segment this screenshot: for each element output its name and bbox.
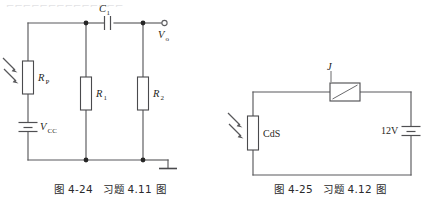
battery-vcc-symbol bbox=[19, 123, 38, 132]
caption-4-25: 图 4-25 习题 4.12 图 bbox=[220, 181, 440, 196]
figure-4-24: R P V CC R 1 R 2 C 1 bbox=[0, 0, 220, 203]
schematic-4-25: J CdS 12V bbox=[220, 0, 440, 178]
label-vcc-subscript: CC bbox=[48, 127, 58, 135]
battery-12v-symbol bbox=[402, 127, 421, 136]
junction-dot-top-r1 bbox=[84, 21, 89, 26]
junction-dot-top-r2 bbox=[141, 21, 146, 26]
photoresistor-cds-body bbox=[248, 116, 259, 150]
junction-dot-bottom-r2 bbox=[141, 158, 146, 163]
light-arrows-cds bbox=[228, 113, 244, 139]
resistor-r2-body bbox=[138, 77, 149, 110]
junction-dot-bottom-r1 bbox=[84, 158, 89, 163]
label-r1: R bbox=[95, 88, 103, 99]
figure-page: ⌐⌐⌐⌐⌐⌐⌐⌐⌐⌐⌐⌐⌐⌐ bbox=[0, 0, 440, 203]
label-vo-subscript: o bbox=[166, 35, 170, 43]
schematic-4-24: R P V CC R 1 R 2 C 1 bbox=[0, 0, 220, 178]
label-12v: 12V bbox=[381, 125, 399, 136]
resistor-r1-body bbox=[81, 77, 92, 110]
label-rp-subscript: P bbox=[46, 78, 50, 86]
label-r2: R bbox=[152, 88, 160, 99]
label-r1-subscript: 1 bbox=[104, 94, 108, 102]
photoresistor-rp-body bbox=[23, 61, 34, 94]
output-terminal-circle bbox=[162, 20, 167, 25]
label-r2-subscript: 2 bbox=[161, 94, 165, 102]
light-arrows-rp bbox=[3, 58, 19, 84]
label-j: J bbox=[327, 61, 333, 72]
figure-4-25: J CdS 12V 图 4-25 习题 4.12 图 bbox=[220, 0, 440, 203]
label-c1-subscript: 1 bbox=[107, 9, 111, 17]
caption-4-24: 图 4-24 习题 4.11 图 bbox=[0, 181, 220, 196]
label-cds: CdS bbox=[263, 128, 280, 139]
label-rp: R bbox=[37, 72, 45, 83]
capacitor-c1-symbol bbox=[105, 16, 111, 30]
